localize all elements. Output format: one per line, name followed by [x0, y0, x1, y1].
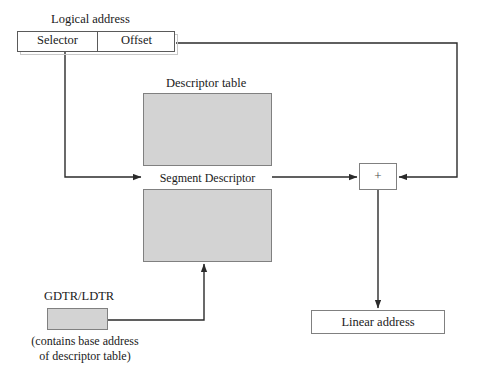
- connector-gdtr-to-table: [108, 264, 204, 320]
- gdtr-ldtr-caption: (contains base address of descriptor tab…: [0, 334, 170, 364]
- connector-selector-to-descriptor: [65, 52, 141, 177]
- gdtr-ldtr-box: [47, 308, 108, 330]
- selector-field: Selector: [18, 33, 97, 47]
- offset-field: Offset: [98, 33, 175, 47]
- logical-address-title: Logical address: [51, 12, 130, 26]
- gdtr-caption-line-2: of descriptor table): [0, 349, 170, 364]
- segment-descriptor-label: Segment Descriptor: [143, 171, 272, 186]
- linear-address-label: Linear address: [311, 315, 445, 330]
- diagram-canvas: Logical address Selector Offset Descript…: [0, 0, 477, 380]
- descriptor-table-title: Descriptor table: [166, 76, 246, 90]
- gdtr-ldtr-title: GDTR/LDTR: [44, 289, 114, 303]
- plus-icon: +: [359, 168, 397, 184]
- gdtr-caption-line-1: (contains base address: [0, 334, 170, 349]
